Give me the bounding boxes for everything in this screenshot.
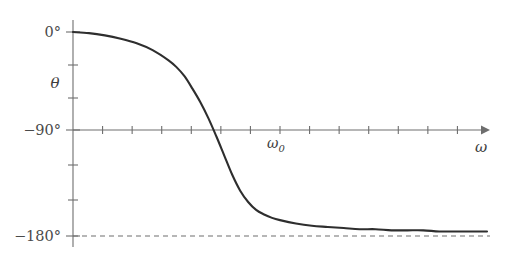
phase-plot-svg: 0° −90° −180° θ ω ω0: [0, 0, 510, 270]
omega-axis-label: ω: [475, 138, 487, 156]
phase-response-figure: 0° −90° −180° θ ω ω0: [0, 0, 510, 270]
y-label-minus90deg: −90°: [23, 122, 61, 138]
theta-axis-label: θ: [50, 74, 59, 92]
omega-zero-subscript: 0: [279, 143, 286, 154]
y-label-0deg: 0°: [45, 24, 61, 40]
omega-zero-symbol: ω: [267, 135, 279, 151]
y-label-minus180deg: −180°: [14, 228, 61, 244]
omega-axis-arrow-icon: [481, 126, 490, 135]
omega-zero-label: ω0: [267, 135, 285, 154]
